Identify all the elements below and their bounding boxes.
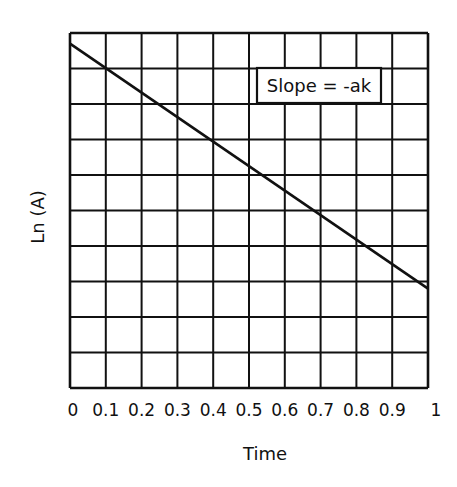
- x-tick-label: 0.8: [343, 400, 370, 420]
- x-tick-label: 0.5: [235, 400, 262, 420]
- slope-annotation: Slope = -ak: [257, 68, 381, 103]
- x-tick-label: 0.6: [271, 400, 298, 420]
- x-tick-label: 0.3: [164, 400, 191, 420]
- chart: 00.10.20.30.40.50.60.70.80.91 Slope = -a…: [0, 0, 457, 487]
- x-tick-label: 0.1: [92, 400, 119, 420]
- x-axis-label: Time: [242, 443, 287, 464]
- x-tick-label: 1: [431, 400, 442, 420]
- x-tick-label: 0: [68, 400, 79, 420]
- annotation-text: Slope = -ak: [267, 75, 372, 96]
- x-tick-label: 0.7: [307, 400, 334, 420]
- x-tick-label: 0.2: [128, 400, 155, 420]
- x-tick-label: 0.9: [379, 400, 406, 420]
- x-tick-labels: 00.10.20.30.40.50.60.70.80.91: [68, 400, 442, 420]
- x-tick-label: 0.4: [200, 400, 227, 420]
- y-axis-label: Ln (A): [27, 190, 48, 244]
